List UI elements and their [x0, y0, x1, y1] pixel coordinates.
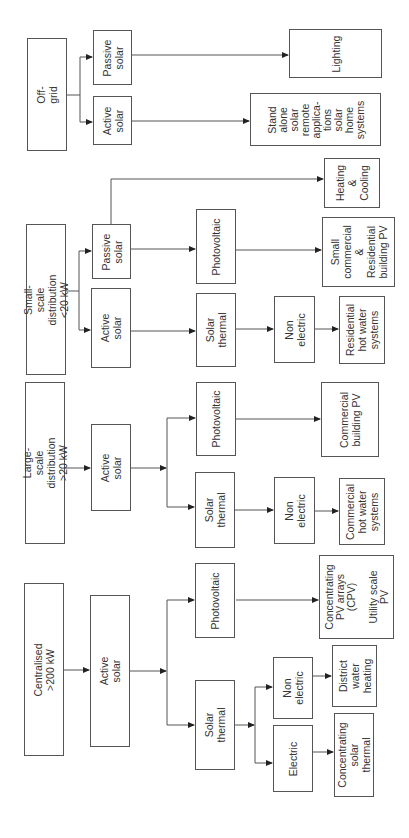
small-scale-root-label: Small-scale distribution <20 kW	[22, 274, 70, 325]
small-commercial-residential-pv-box: Small commercial & Residential building …	[322, 217, 395, 287]
small-scale-root-box: Small-scale distribution <20 kW	[26, 224, 66, 375]
large-scale-active-solar-label: Active solar	[99, 453, 123, 482]
small-scale-passive-solar-label: Passive solar	[100, 233, 124, 270]
offgrid-active-solar-label: Active solar	[101, 106, 125, 135]
centralised-electric-box: Electric	[273, 725, 313, 792]
large-scale-solar-thermal-box: Solar thermal	[195, 472, 235, 548]
heating-cooling-box: Heating & Cooling	[324, 158, 380, 208]
offgrid-root-label: Off-grid	[35, 85, 59, 104]
large-scale-photovoltaic-box: Photovoltaic	[196, 382, 236, 456]
centralised-photovoltaic-box: Photovoltaic	[195, 563, 235, 638]
small-scale-solar-thermal-label: Solar thermal	[204, 312, 228, 347]
small-scale-photovoltaic-label: Photovoltaic	[210, 218, 222, 275]
large-scale-photovoltaic-label: Photovoltaic	[210, 390, 222, 447]
standalone-solar-label: Stand alone solar remote applica- tions …	[266, 100, 365, 139]
centralised-solar-thermal-box: Solar thermal	[195, 680, 235, 770]
large-scale-non-electric-box: Non electric	[274, 477, 315, 544]
concentrating-pv-utility-label: Concentrating PV arrays (CPV) Utility sc…	[324, 564, 390, 629]
small-commercial-residential-pv-label: Small commercial & Residential building …	[329, 225, 389, 279]
commercial-hot-water-label: Commercial hot water systems	[344, 483, 380, 539]
large-scale-non-electric-label: Non electric	[283, 494, 307, 527]
commercial-building-pv-label: Commercial building PV	[338, 391, 362, 447]
centralised-solar-thermal-label: Solar thermal	[203, 707, 227, 742]
solar-classification-diagram: Off-grid Passive solar Active solar Ligh…	[0, 0, 409, 838]
centralised-non-electric-box: Non electric	[273, 657, 313, 719]
small-scale-non-electric-label: Non electric	[283, 313, 307, 346]
lighting-label: Lighting	[330, 35, 342, 72]
commercial-hot-water-box: Commercial hot water systems	[339, 478, 385, 545]
small-scale-passive-solar-box: Passive solar	[92, 224, 131, 279]
residential-hot-water-label: Residential hot water systems	[344, 304, 380, 356]
centralised-photovoltaic-label: Photovoltaic	[209, 572, 221, 629]
concentrating-pv-utility-box: Concentrating PV arrays (CPV) Utility sc…	[319, 555, 394, 639]
centralised-root-box: Centralised >200 kW	[24, 583, 64, 756]
lighting-box: Lighting	[289, 29, 382, 78]
large-scale-active-solar-box: Active solar	[91, 424, 131, 511]
centralised-active-solar-box: Active solar	[90, 595, 130, 747]
commercial-building-pv-box: Commercial building PV	[321, 382, 379, 457]
small-scale-active-solar-label: Active solar	[99, 314, 123, 343]
centralised-electric-label: Electric	[287, 741, 299, 775]
offgrid-passive-solar-box: Passive solar	[93, 30, 132, 85]
offgrid-passive-solar-label: Passive solar	[101, 39, 125, 76]
small-scale-non-electric-box: Non electric	[274, 296, 315, 363]
centralised-non-electric-label: Non electric	[281, 671, 305, 704]
residential-hot-water-box: Residential hot water systems	[339, 296, 385, 364]
district-water-heating-box: District water heating	[332, 645, 377, 707]
heating-cooling-label: Heating & Cooling	[334, 165, 370, 201]
small-scale-photovoltaic-box: Photovoltaic	[196, 209, 236, 284]
standalone-solar-box: Stand alone solar remote applica- tions …	[250, 93, 381, 146]
large-scale-root-box: Large-scale distribution >20 kW	[25, 382, 65, 544]
centralised-active-solar-label: Active solar	[98, 657, 122, 686]
centralised-root-label: Centralised >200 kW	[32, 643, 56, 696]
small-scale-active-solar-box: Active solar	[91, 288, 131, 368]
offgrid-root-box: Off-grid	[27, 38, 67, 151]
district-water-heating-label: District water heating	[337, 659, 373, 693]
concentrating-solar-thermal-box: Concentrating solar thermal	[334, 713, 374, 797]
large-scale-root-label: Large-scale distribution >20 kW	[21, 438, 69, 489]
concentrating-solar-thermal-label: Concentrating solar thermal	[336, 722, 372, 787]
offgrid-active-solar-box: Active solar	[93, 96, 132, 145]
small-scale-solar-thermal-box: Solar thermal	[196, 293, 236, 367]
large-scale-solar-thermal-label: Solar thermal	[203, 492, 227, 527]
